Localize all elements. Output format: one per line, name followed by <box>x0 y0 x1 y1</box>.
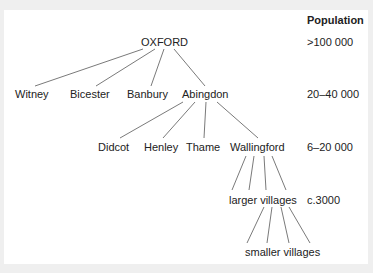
population-level-1: >100 000 <box>307 36 353 49</box>
node-bicester: Bicester <box>70 88 110 101</box>
edge-abingdon-thame <box>204 102 206 138</box>
node-oxford: OXFORD <box>141 36 188 49</box>
node-smaller-villages: smaller villages <box>245 246 320 259</box>
node-witney: Witney <box>15 88 49 101</box>
population-header: Population <box>307 14 364 27</box>
population-level-4: c.3000 <box>307 194 340 207</box>
edge-wallingford-village-2 <box>249 156 254 190</box>
edge-oxford-witney <box>35 49 143 86</box>
edge-wallingford-village-1 <box>232 156 246 190</box>
edge-abingdon-wallingford <box>217 102 258 138</box>
population-level-2: 20–40 000 <box>307 88 359 101</box>
node-wallingford: Wallingford <box>230 141 285 154</box>
edge-larger-smaller-2 <box>267 207 272 243</box>
edge-wallingford-village-3 <box>264 156 266 190</box>
edge-wallingford-village-4 <box>272 156 286 190</box>
edge-abingdon-didcot <box>120 102 183 138</box>
node-banbury: Banbury <box>127 88 168 101</box>
edge-larger-smaller-1 <box>247 207 264 243</box>
population-level-3: 6–20 000 <box>307 141 353 154</box>
edge-abingdon-henley <box>163 102 195 138</box>
edge-larger-smaller-4 <box>289 207 310 243</box>
edge-oxford-banbury <box>151 49 164 86</box>
node-thame: Thame <box>186 141 220 154</box>
node-didcot: Didcot <box>98 141 129 154</box>
edge-oxford-abingdon <box>174 49 205 86</box>
node-larger-villages: larger villages <box>229 194 297 207</box>
node-abingdon: Abingdon <box>182 88 229 101</box>
edge-larger-smaller-3 <box>281 207 289 243</box>
node-henley: Henley <box>144 141 178 154</box>
